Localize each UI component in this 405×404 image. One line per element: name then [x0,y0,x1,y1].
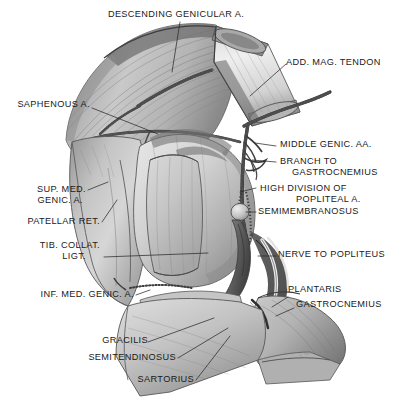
label-gastrocnemius-upper: GASTROCNEMIUS [292,167,404,179]
label-plantaris: PLANTARIS [288,284,404,296]
label-middle-genic-aa: MIDDLE GENIC. AA. [280,139,404,151]
label-semitendinosus: SEMITENDINOSUS [20,352,176,364]
label-sartorius: SARTORIUS [60,374,194,386]
label-saphenous-a: SAPHENOUS A. [0,99,90,111]
label-nerve-to-popliteus: NERVE TO POPLITEUS [278,249,404,261]
label-high-division-of: HIGH DIVISION OF [260,183,404,195]
label-gastrocnemius-lower: GASTROCNEMIUS [296,299,404,311]
label-popliteal-a: POPLITEAL A. [296,194,404,206]
label-branch-to: BRANCH TO [280,156,404,168]
label-inf-med-genic-a: INF. MED. GENIC. A. [0,289,134,301]
label-sup-med: SUP. MED. [0,184,86,196]
label-genic-a: GENIC. A. [0,195,83,207]
label-gracilis: GRACILIS [38,335,148,347]
label-semimembranosus: SEMIMEMBRANOSUS [258,206,404,218]
label-ligt: LIGT. [0,251,86,263]
label-patellar-ret: PATELLAR RET. [0,216,100,228]
label-add-mag-tendon: ADD. MAG. TENDON [286,57,404,69]
label-descending-genicular-a: DESCENDING GENICULAR A. [86,9,266,21]
tibial-collateral-ligament [147,155,203,276]
label-tib-collat: TIB. COLLAT. [0,240,100,252]
anatomy-figure-page: DESCENDING GENICULAR A. ADD. MAG. TENDON… [0,0,405,404]
